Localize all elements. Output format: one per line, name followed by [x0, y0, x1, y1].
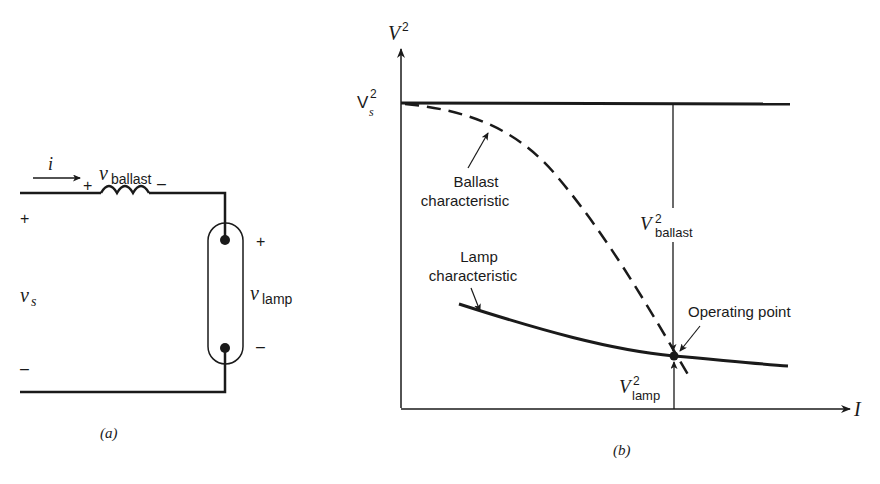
- ballast-annotation-line1: Ballast: [453, 173, 499, 190]
- characteristic-chart: V 2 I V 2 s V 2 ballast V 2 lamp Ballast…: [357, 20, 862, 459]
- source-level-line: [401, 103, 790, 104]
- ballast-annotation-line2: characteristic: [421, 192, 510, 209]
- circuit-diagram: i + v ballast – + v s – + v lamp – (a): [20, 154, 293, 442]
- v-lamp-subscript: lamp: [632, 388, 660, 403]
- caption-b: (b): [613, 442, 631, 459]
- source-voltage-symbol: v: [20, 284, 29, 306]
- operating-point-marker: [670, 352, 679, 361]
- lamp-annotation-line1: Lamp: [460, 248, 498, 265]
- top-wire-right: [149, 193, 225, 240]
- lamp-annotation-line2: characteristic: [429, 267, 518, 284]
- bottom-wire: [20, 348, 225, 392]
- v-ballast-superscript: 2: [655, 212, 662, 226]
- lamp-terminal-top: [220, 235, 230, 245]
- operating-point-label: Operating point: [688, 303, 791, 320]
- lamp-minus-sign: –: [256, 338, 265, 355]
- ballast-annotation-arrow-icon: [468, 133, 488, 168]
- v-lamp-superscript: 2: [633, 374, 640, 388]
- ballast-voltage-symbol: v: [99, 162, 108, 184]
- ballast-plus-sign: +: [83, 177, 92, 194]
- y-axis-label: V: [388, 22, 403, 44]
- v-lamp-label: V: [619, 376, 633, 397]
- vs-level-subscript: s: [369, 105, 374, 119]
- lamp-voltage-symbol: v: [250, 282, 259, 304]
- v-ballast-label: V: [640, 213, 654, 234]
- vs-level-label: V: [357, 93, 369, 112]
- inductor-icon: [101, 186, 149, 193]
- operating-point-arrow-icon: [680, 326, 700, 351]
- vs-level-superscript: 2: [370, 87, 377, 101]
- source-plus-sign: +: [20, 210, 29, 227]
- figure: i + v ballast – + v s – + v lamp – (a) V…: [0, 0, 880, 484]
- current-label: i: [48, 154, 53, 174]
- y-axis-label-superscript: 2: [402, 20, 409, 34]
- ballast-characteristic-curve: [405, 104, 690, 378]
- ballast-minus-sign: –: [157, 175, 166, 192]
- caption-a: (a): [100, 425, 118, 442]
- x-axis-label: I: [853, 398, 862, 420]
- lamp-plus-sign: +: [256, 233, 265, 250]
- lamp-voltage-subscript: lamp: [262, 291, 293, 307]
- source-voltage-subscript: s: [31, 294, 37, 309]
- v-ballast-subscript: ballast: [655, 225, 693, 240]
- ballast-voltage-subscript: ballast: [111, 171, 152, 187]
- source-minus-sign: –: [20, 360, 29, 377]
